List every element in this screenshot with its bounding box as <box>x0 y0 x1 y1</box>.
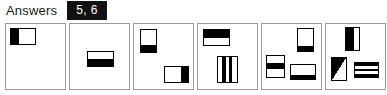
rect-horizontal-stripes <box>354 62 379 78</box>
panel-5[interactable] <box>261 23 322 90</box>
rect-diagonal-triangle <box>331 57 347 81</box>
black-fill <box>267 63 284 68</box>
rect-left-black-portion <box>345 27 360 51</box>
rect-bottom-third-black <box>140 29 157 53</box>
black-fill <box>298 46 313 51</box>
answers-header: Answers 5, 6 <box>6 2 107 19</box>
black-stripe-bottom <box>355 74 378 77</box>
rect-bottom-edge-black <box>290 64 316 80</box>
black-fill <box>181 67 188 82</box>
black-fill <box>204 30 229 38</box>
panel-3[interactable] <box>133 23 194 90</box>
black-stripe-middle <box>355 69 378 72</box>
rect-bottom-band-black <box>297 28 314 52</box>
panel-row <box>5 23 386 90</box>
black-triangle <box>332 58 346 80</box>
rect-bottom-half-black <box>87 51 114 67</box>
black-fill <box>291 75 315 79</box>
black-fill <box>346 28 354 50</box>
black-bar-right <box>229 57 233 82</box>
rect-middle-band-black <box>266 55 285 78</box>
rect-left-black-third <box>10 28 36 45</box>
panel-2[interactable] <box>69 23 130 90</box>
rect-right-third-black <box>164 66 189 83</box>
answers-label: Answers <box>6 3 57 18</box>
rect-two-vertical-bars <box>217 56 238 83</box>
black-bar-left <box>222 57 226 82</box>
black-fill <box>88 59 113 66</box>
answer-key-figure: Answers 5, 6 <box>0 0 387 95</box>
rect-top-band-black <box>203 29 230 46</box>
answer-chip: 5, 6 <box>67 1 107 20</box>
black-fill <box>141 45 156 52</box>
panel-4[interactable] <box>197 23 258 90</box>
panel-1[interactable] <box>5 23 66 90</box>
black-fill <box>11 29 19 44</box>
panel-6[interactable] <box>325 23 386 90</box>
black-stripe-top <box>355 63 378 66</box>
